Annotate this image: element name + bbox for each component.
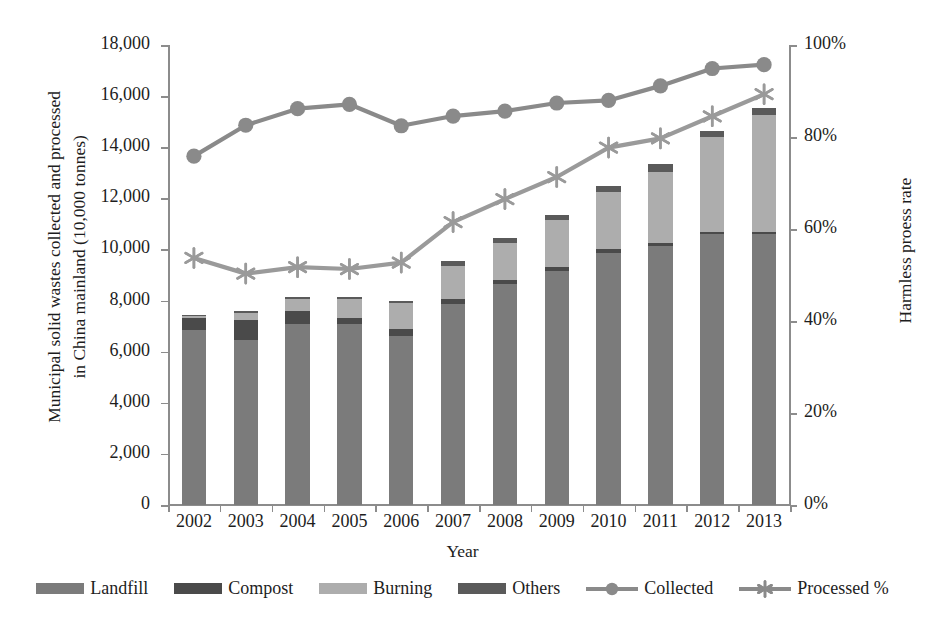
circle-marker (394, 118, 409, 133)
x-axis-tick-label: 2009 (531, 511, 583, 532)
circle-marker (238, 118, 253, 133)
circle-marker (342, 97, 357, 112)
y-axis-left-tick (161, 454, 168, 456)
y-axis-left-tick-label: 2,000 (30, 442, 150, 463)
y-axis-right-tick (790, 137, 797, 139)
circle-marker (549, 95, 564, 110)
x-axis-tick-label: 2004 (272, 511, 324, 532)
y-axis-right-tick-label: 80% (804, 125, 894, 146)
legend-item-burning[interactable]: Burning (319, 578, 432, 599)
legend-item-landfill[interactable]: Landfill (36, 578, 148, 599)
legend-item-collected[interactable]: Collected (586, 578, 713, 599)
y-axis-left-tick (161, 403, 168, 405)
x-axis-title: Year (0, 541, 925, 562)
circle-marker (497, 104, 512, 119)
y-axis-right-tick-label: 60% (804, 217, 894, 238)
x-axis-tick-label: 2003 (220, 511, 272, 532)
y-axis-left-tick (161, 147, 168, 149)
star-marker (497, 190, 513, 209)
x-axis-tick-label: 2005 (324, 511, 376, 532)
legend-label: Compost (228, 578, 293, 599)
y-axis-left-tick (161, 352, 168, 354)
y-axis-left-tick-label: 4,000 (30, 391, 150, 412)
line-processed (194, 94, 764, 273)
circle-marker (601, 93, 616, 108)
y-axis-left-tick-label: 6,000 (30, 340, 150, 361)
y-axis-left-tick-label: 8,000 (30, 289, 150, 310)
legend-swatch-icon (174, 583, 222, 594)
x-axis-tick-label: 2008 (479, 511, 531, 532)
legend-swatch-icon (319, 583, 367, 594)
y-axis-left-tick-label: 14,000 (30, 135, 150, 156)
x-axis-tick-label: 2012 (686, 511, 738, 532)
y-axis-left-tick (161, 45, 168, 47)
circle-marker (445, 108, 460, 123)
x-axis-tick-label: 2011 (635, 511, 687, 532)
x-axis-tick-label: 2013 (738, 511, 790, 532)
y-axis-left-tick-label: 16,000 (30, 84, 150, 105)
y-axis-left-tick (161, 96, 168, 98)
circle-marker (653, 78, 668, 93)
plot-area: 02,0004,0006,0008,00010,00012,00014,0001… (168, 45, 790, 505)
legend-label: Processed % (797, 578, 888, 599)
legend-swatch-icon (458, 583, 506, 594)
circle-marker (290, 101, 305, 116)
chart-legend: LandfillCompostBurningOthersCollectedPro… (0, 578, 925, 599)
y-axis-left-tick (161, 301, 168, 303)
x-axis-tick-label: 2007 (427, 511, 479, 532)
star-marker (756, 85, 772, 104)
legend-swatch-icon (36, 583, 84, 594)
x-axis-tick-label: 2010 (583, 511, 635, 532)
y-axis-left-tick (161, 249, 168, 251)
y-axis-right-tick-label: 20% (804, 401, 894, 422)
legend-label: Burning (373, 578, 432, 599)
x-axis-tick-label: 2002 (168, 511, 220, 532)
y-axis-right-tick-label: 100% (804, 33, 894, 54)
y-axis-right-tick (790, 321, 797, 323)
y-axis-right-tick (790, 413, 797, 415)
y-axis-left-tick-label: 0 (30, 493, 150, 514)
circle-marker (705, 61, 720, 76)
legend-line-circle-icon (586, 582, 638, 596)
legend-label: Others (512, 578, 560, 599)
line-collected (194, 65, 764, 156)
y-axis-left-tick-label: 18,000 (30, 33, 150, 54)
y-axis-left-tick (161, 505, 168, 507)
star-marker (704, 107, 720, 126)
y-axis-right-tick-label: 40% (804, 309, 894, 330)
legend-label: Collected (644, 578, 713, 599)
legend-item-others[interactable]: Others (458, 578, 560, 599)
legend-item-processed[interactable]: Processed % (739, 578, 888, 599)
legend-label: Landfill (90, 578, 148, 599)
line-series-overlay (168, 45, 790, 505)
y-axis-right-tick (790, 229, 797, 231)
x-axis-tick (790, 505, 792, 512)
y-axis-right-tick-label: 0% (804, 493, 894, 514)
legend-item-compost[interactable]: Compost (174, 578, 293, 599)
circle-marker (756, 57, 771, 72)
chart-canvas: Municipal solid wastes collected and pro… (0, 0, 925, 636)
legend-line-star-icon (739, 582, 791, 596)
y-axis-right-title: Harmless proess rate (895, 106, 916, 396)
y-axis-left-tick-label: 10,000 (30, 237, 150, 258)
y-axis-right-tick (790, 45, 797, 47)
x-axis-tick-label: 2006 (375, 511, 427, 532)
y-axis-left-tick-label: 12,000 (30, 186, 150, 207)
y-axis-left-tick (161, 198, 168, 200)
star-marker (759, 581, 772, 596)
star-marker (549, 168, 565, 187)
circle-marker (186, 149, 201, 164)
